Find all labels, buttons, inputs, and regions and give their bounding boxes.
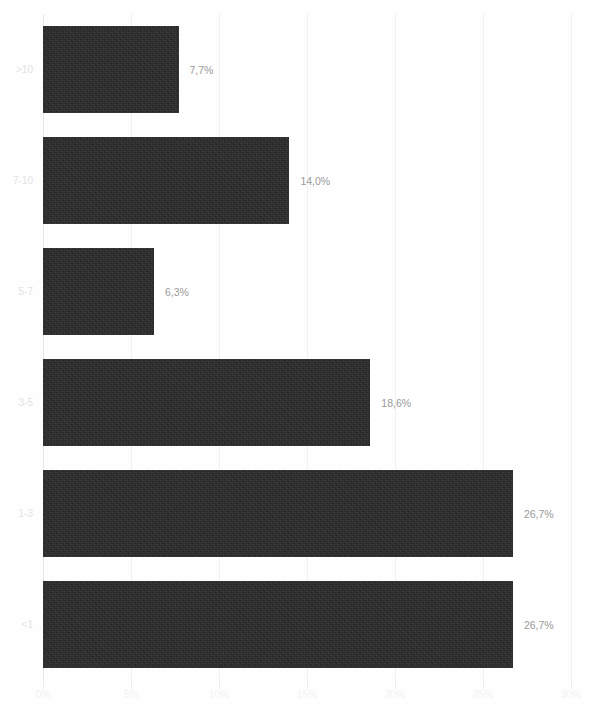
value-label: 7,7% [190, 65, 214, 76]
bar-3-5[interactable] [43, 359, 370, 446]
value-label: 18,6% [381, 398, 411, 409]
bar-row: 18,6% [43, 359, 571, 446]
x-tick-label: 0% [36, 690, 50, 700]
tickmark-20% [395, 680, 396, 689]
tickmark-15% [307, 680, 308, 689]
bars-layer: 7,7%14,0%6,3%18,6%26,7%26,7% [43, 14, 571, 680]
x-tick-label: 5% [124, 690, 138, 700]
tickmark-0% [43, 680, 44, 689]
value-label: 26,7% [524, 620, 554, 631]
category-label-5-7: 5-7 [19, 287, 33, 297]
bar-1-3[interactable] [43, 470, 513, 557]
bar-row: 6,3% [43, 248, 571, 335]
bar-5-7[interactable] [43, 248, 154, 335]
tickmark-30% [571, 680, 572, 689]
plot-area: 7,7%14,0%6,3%18,6%26,7%26,7% [43, 14, 571, 680]
y-axis-labels: >107-105-73-51-3<1 [0, 14, 37, 680]
bar-row: 26,7% [43, 470, 571, 557]
x-tick-label: 30% [561, 690, 581, 700]
bar->10[interactable] [43, 26, 179, 113]
category-label->10: >10 [16, 65, 33, 75]
x-tick-label: 15% [297, 690, 317, 700]
x-tick-label: 20% [385, 690, 405, 700]
category-label-<1: <1 [22, 620, 33, 630]
category-label-3-5: 3-5 [19, 398, 33, 408]
x-axis-labels: 0%5%10%15%20%25%30% [43, 690, 571, 710]
category-label-1-3: 1-3 [19, 509, 33, 519]
category-label-7-10: 7-10 [13, 176, 33, 186]
bar-row: 26,7% [43, 581, 571, 668]
x-tick-label: 25% [473, 690, 493, 700]
tickmark-5% [131, 680, 132, 689]
value-label: 26,7% [524, 509, 554, 520]
value-label: 14,0% [300, 176, 330, 187]
value-label: 6,3% [165, 287, 189, 298]
tickmark-10% [219, 680, 220, 689]
gridline-30% [571, 14, 572, 680]
bar-row: 14,0% [43, 137, 571, 224]
bar-7-10[interactable] [43, 137, 289, 224]
bar-<1[interactable] [43, 581, 513, 668]
bar-row: 7,7% [43, 26, 571, 113]
bar-chart: 7,7%14,0%6,3%18,6%26,7%26,7% >107-105-73… [0, 0, 600, 727]
tickmark-25% [483, 680, 484, 689]
x-tick-label: 10% [209, 690, 229, 700]
